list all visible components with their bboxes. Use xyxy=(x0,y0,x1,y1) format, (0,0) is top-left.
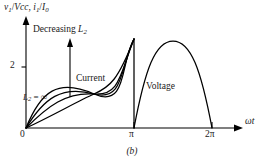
y-tick-label-2: 2 xyxy=(10,61,15,71)
x-tick-label-0: 0 xyxy=(20,130,25,140)
y-axis xyxy=(22,16,30,128)
current-curve-family xyxy=(26,39,134,128)
current-curve-label: Current xyxy=(76,74,105,84)
x-tick-label-pi: π xyxy=(129,130,134,140)
figure-caption: (b) xyxy=(0,147,264,157)
y-axis-label: v1/Vcc, i1/I0 xyxy=(4,3,49,13)
x-tick-label-2pi: 2π xyxy=(205,130,215,140)
decreasing-l2-label: Decreasing L2 xyxy=(33,25,87,35)
current-curve-step-2 xyxy=(26,39,134,128)
figure-container: v1/Vcc, i1/I0 Decreasing L2 L2 = ∞ Curre… xyxy=(0,0,264,161)
x-axis-label: ωt xyxy=(245,117,254,127)
l2-infinity-label: L2 = ∞ xyxy=(23,93,47,103)
voltage-curve-label: Voltage xyxy=(146,82,175,92)
